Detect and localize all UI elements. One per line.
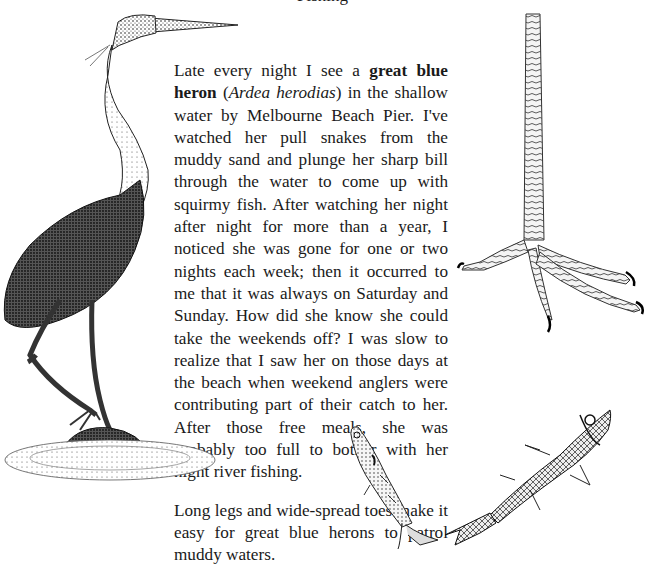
heron-foot-illustration-icon [440, 0, 645, 340]
heron-illustration-icon [0, 0, 250, 500]
small-fish-illustration-icon [340, 395, 450, 549]
large-fish-illustration-icon [440, 395, 645, 549]
